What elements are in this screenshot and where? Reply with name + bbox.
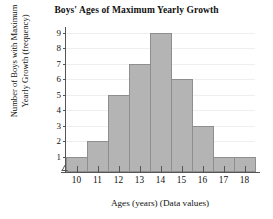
y-tick-label: 6: [47, 75, 61, 84]
x-tick-mark: [119, 166, 120, 172]
x-axis-line: [61, 172, 260, 173]
y-tick-label: 9: [47, 29, 61, 38]
y-axis-title-line-1: Number of Boys with Maximum: [9, 0, 20, 136]
x-tick-mark: [203, 166, 204, 172]
y-tick-mark: [63, 95, 66, 96]
x-tick-label: 10: [66, 175, 88, 185]
y-tick-label: 2: [47, 137, 61, 146]
x-tick-label: 17: [213, 175, 235, 185]
y-tick-label: 3: [47, 121, 61, 130]
x-tick-label: 16: [192, 175, 214, 185]
y-tick-label: 5: [47, 90, 61, 99]
y-tick-mark: [63, 110, 66, 111]
bar: [108, 95, 130, 172]
y-tick-mark: [63, 126, 66, 127]
histogram-chart: Boys' Ages of Maximum Yearly Growth Numb…: [0, 0, 273, 219]
x-tick-mark: [182, 166, 183, 172]
y-tick-label: 4: [47, 106, 61, 115]
plot-area: 987654321 101112131415161718: [66, 33, 255, 172]
y-tick-label: 8: [47, 44, 61, 53]
x-tick-mark: [77, 166, 78, 172]
x-tick-label: 15: [171, 175, 193, 185]
x-tick-mark: [161, 166, 162, 172]
bar: [129, 64, 151, 172]
x-tick-label: 14: [150, 175, 172, 185]
x-tick-mark: [140, 166, 141, 172]
y-tick-label: 1: [47, 152, 61, 161]
x-axis-title: Ages (years) (Data values): [55, 198, 265, 208]
bar: [171, 79, 193, 172]
y-tick-mark: [63, 48, 66, 49]
y-axis-title-line-2: Yearly Growth (frequency): [20, 0, 31, 136]
x-tick-label: 13: [129, 175, 151, 185]
y-tick-mark: [63, 157, 66, 158]
y-tick-label: 7: [47, 59, 61, 68]
chart-title: Boys' Ages of Maximum Yearly Growth: [0, 5, 273, 15]
x-tick-label: 12: [108, 175, 130, 185]
y-axis-title: Number of Boys with Maximum Yearly Growt…: [9, 0, 39, 136]
x-tick-mark: [98, 166, 99, 172]
y-tick-mark: [63, 141, 66, 142]
y-tick-mark: [63, 64, 66, 65]
y-tick-mark: [63, 79, 66, 80]
x-tick-label: 18: [234, 175, 256, 185]
x-tick-mark: [245, 166, 246, 172]
x-tick-mark: [224, 166, 225, 172]
x-tick-label: 11: [87, 175, 109, 185]
bar: [150, 33, 172, 172]
y-tick-mark: [63, 33, 66, 34]
